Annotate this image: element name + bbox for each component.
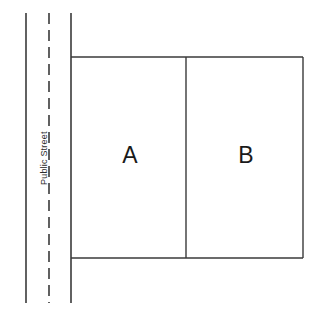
plat-diagram: Public Street A B: [0, 0, 327, 316]
plat-diagram-canvas: [0, 0, 327, 316]
lot-a-label: A: [122, 144, 137, 167]
street-label: Public Street: [40, 131, 49, 185]
lot-b-label: B: [238, 144, 253, 167]
